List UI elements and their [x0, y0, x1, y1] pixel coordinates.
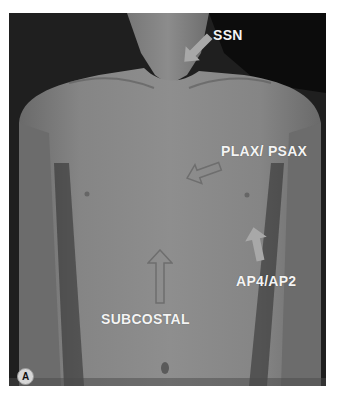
subcostal-arrow-icon [147, 249, 173, 305]
ssn-label: SSN [213, 27, 243, 43]
plax-psax-arrow-icon [184, 158, 224, 186]
ap4-ap2-arrow-icon [245, 226, 269, 262]
plax-psax-label: PLAX/ PSAX [221, 143, 307, 159]
echo-window-photo: SSN PLAX/ PSAX AP4/AP2 SUBCOSTAL A [9, 13, 326, 386]
subcostal-label: SUBCOSTAL [101, 311, 190, 327]
panel-label-badge: A [17, 368, 34, 385]
torso-photo-illustration [9, 13, 326, 386]
ap4-ap2-label: AP4/AP2 [236, 273, 296, 289]
ssn-arrow-icon [177, 31, 217, 67]
